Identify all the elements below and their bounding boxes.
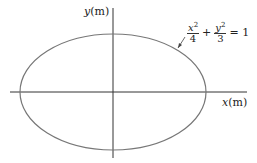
plus-sign: + [202,26,211,39]
ellipse-equation: x2 4 + y2 3 = 1 [187,20,249,44]
x-denominator: 4 [187,34,199,44]
y-denominator: 3 [214,34,226,44]
fraction-x: x2 4 [187,20,199,44]
ellipse-diagram: y(m) x(m) x2 4 + y2 3 = 1 [0,0,257,163]
equals-one: = 1 [229,26,249,39]
x-axis-unit: (m) [228,96,247,109]
y-axis-label: y(m) [84,5,109,18]
fraction-y: y2 3 [214,20,226,44]
equation-pointer-arrowhead [178,43,182,48]
x-axis-label: x(m) [222,96,247,109]
y-exponent: 2 [221,21,225,29]
x-exponent: 2 [194,21,198,29]
y-axis-unit: (m) [90,5,109,18]
